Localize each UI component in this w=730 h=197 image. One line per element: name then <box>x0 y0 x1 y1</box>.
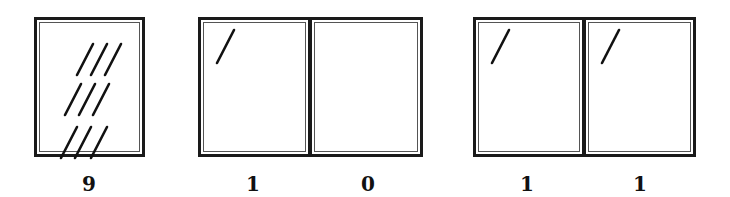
frame-group1-1 <box>34 17 145 157</box>
tally-mark-icon <box>201 20 314 160</box>
count-label: 1 <box>233 172 273 196</box>
count-label: 0 <box>348 172 388 196</box>
frame-group3-2 <box>583 17 696 157</box>
tally-marks-icon <box>37 20 148 160</box>
count-label: 9 <box>69 172 109 196</box>
tally-mark-icon <box>476 20 588 160</box>
count-label: 1 <box>507 172 547 196</box>
frame-inner-border <box>314 22 418 152</box>
frame-group3-1 <box>473 17 585 157</box>
count-label: 1 <box>620 172 660 196</box>
tally-mark-icon <box>586 20 699 160</box>
frame-group2-1 <box>198 17 311 157</box>
frame-group2-2 <box>309 17 423 157</box>
